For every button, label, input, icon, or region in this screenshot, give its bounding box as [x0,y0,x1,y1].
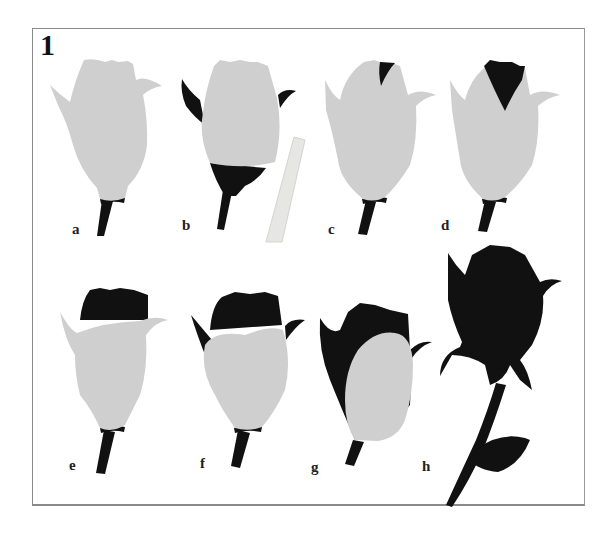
step-h-rose [440,245,562,507]
rose-steps-illustration [0,0,612,541]
step-g-rose [320,303,432,466]
step-label-b: b [182,218,190,233]
step-label-c: c [328,222,335,237]
step-label-g: g [311,460,319,475]
step-label-a: a [72,222,80,237]
step-label-f: f [200,456,205,471]
step-label-d: d [441,218,449,233]
step-label-h: h [422,459,430,474]
step-b-rose [182,60,306,242]
step-e-rose [60,288,168,474]
step-d-rose [450,60,560,232]
step-f-rose [191,292,305,468]
step-label-e: e [69,458,76,473]
step-a-rose [50,59,162,236]
step-c-rose [325,60,436,235]
